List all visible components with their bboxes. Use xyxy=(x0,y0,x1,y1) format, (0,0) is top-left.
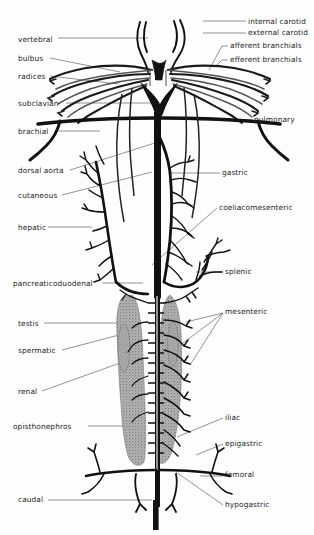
leader-epigastric xyxy=(196,444,223,455)
leader-cutaneous xyxy=(62,172,152,195)
brachial-right xyxy=(258,121,288,160)
label-vertebral: vertebral xyxy=(18,36,53,44)
label-iliac: iliac xyxy=(225,414,240,422)
internal-carotid-right xyxy=(171,20,185,72)
label-spermatic: spermatic xyxy=(18,347,56,355)
label-coeliacomesenteric: coeliacomesenteric xyxy=(219,204,293,212)
leader-mesenteric-3 xyxy=(190,313,223,365)
label-opisthonephros: opisthonephros xyxy=(13,423,71,431)
epigastric-right xyxy=(212,444,224,472)
internal-carotid-left xyxy=(137,22,148,72)
subclavian-left xyxy=(38,118,157,124)
label-caudal: caudal xyxy=(18,496,43,504)
label-renal: renal xyxy=(18,388,37,396)
leader-dorsal-aorta xyxy=(70,142,158,170)
label-brachial: brachial xyxy=(18,128,48,136)
label-bulbus: bulbus xyxy=(18,55,43,63)
external-carotid-left xyxy=(144,22,147,52)
caudal-artery xyxy=(153,500,159,530)
label-external-carotid: external carotid xyxy=(248,29,308,37)
opisthonephros-right-lobe xyxy=(168,322,179,366)
label-mesenteric: mesenteric xyxy=(225,308,267,316)
hypogastric-right xyxy=(166,474,177,512)
label-dorsal-aorta: dorsal aorta xyxy=(18,167,64,175)
label-afferent-branchials: afferent branchials xyxy=(230,42,302,50)
ventral-aorta-bulbus xyxy=(150,60,166,86)
hypogastric-left xyxy=(135,474,146,512)
label-efferent-branchials: efferent branchials xyxy=(230,56,302,64)
label-hepatic: hepatic xyxy=(18,224,46,232)
branchial-arches-left xyxy=(50,66,152,123)
external-carotid-right xyxy=(173,21,177,52)
hepatic-main xyxy=(96,162,116,282)
label-hypogastric: hypogastric xyxy=(225,501,270,509)
bulbus-arteriosus xyxy=(152,60,166,80)
anatomical-diagram-figure: vertebral bulbus radices subclavian brac… xyxy=(0,0,314,535)
leader-mesenteric-2 xyxy=(183,313,223,343)
vessel-diagram-svg xyxy=(0,0,314,535)
iliac-left xyxy=(86,470,156,476)
leader-hypogastric xyxy=(176,472,223,505)
label-epigastric: epigastric xyxy=(225,440,262,448)
opisthonephros-left-lobe xyxy=(118,324,130,372)
label-pulmonary: pulmonary xyxy=(254,116,295,124)
label-testis: testis xyxy=(18,320,39,328)
label-gastric: gastric xyxy=(222,169,248,177)
label-internal-carotid: internal carotid xyxy=(248,18,306,26)
label-pancreaticoduodenal: pancreaticoduodenal xyxy=(13,280,93,288)
label-cutaneous: cutaneous xyxy=(18,192,57,200)
leader-iliac xyxy=(177,418,223,437)
label-radices: radices xyxy=(18,73,45,81)
label-subclavian: subclavian xyxy=(18,100,59,108)
label-splenic: splenic xyxy=(225,268,252,276)
hepatic-to-aorta xyxy=(116,282,148,294)
aortic-arch-junction xyxy=(140,82,178,116)
label-femoral: femoral xyxy=(225,471,254,479)
iliac-right xyxy=(159,470,230,476)
hepatic-cutaneous-branches xyxy=(80,146,148,294)
epigastric-left xyxy=(88,444,100,472)
opisthonephros-left xyxy=(117,295,146,465)
